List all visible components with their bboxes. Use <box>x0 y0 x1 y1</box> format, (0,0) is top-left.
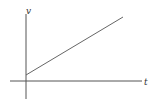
x-axis-label: t <box>144 77 148 87</box>
velocity-line <box>26 17 123 75</box>
y-axis-label: v <box>26 6 31 16</box>
velocity-time-graph: v t <box>0 0 156 102</box>
